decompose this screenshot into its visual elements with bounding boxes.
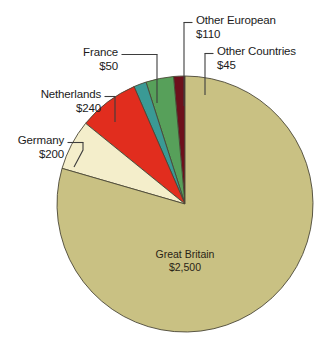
callout-other-european-value: $110	[196, 28, 276, 42]
callout-germany-value: $200	[6, 148, 64, 162]
callout-netherlands: Netherlands $240	[24, 88, 101, 115]
callout-other-countries-name: Other Countries	[217, 45, 296, 57]
callout-germany-name: Germany	[18, 134, 64, 146]
callout-germany: Germany $200	[6, 134, 64, 161]
callout-france: France $50	[62, 46, 118, 73]
callout-france-value: $50	[62, 60, 118, 74]
callout-other-countries: Other Countries $45	[217, 45, 296, 72]
slice-label-great-britain-value: $2,500	[125, 261, 245, 274]
pie-chart: Other European $110 Other Countries $45 …	[0, 0, 315, 347]
callout-other-countries-value: $45	[217, 59, 296, 73]
callout-netherlands-name: Netherlands	[41, 88, 101, 100]
callout-other-european-name: Other European	[196, 14, 276, 26]
callout-france-name: France	[83, 46, 118, 58]
callout-netherlands-value: $240	[24, 102, 101, 116]
slice-label-great-britain: Great Britain $2,500	[125, 248, 245, 274]
callout-other-european: Other European $110	[196, 14, 276, 41]
slice-label-great-britain-name: Great Britain	[156, 248, 215, 260]
